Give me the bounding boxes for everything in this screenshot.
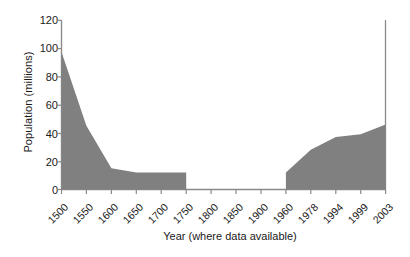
area-segment-early xyxy=(62,52,187,190)
plot-area xyxy=(0,0,410,257)
x-axis-title: Year (where data available) xyxy=(130,230,330,242)
population-area-chart: Population (millions) 120 100 80 60 40 2… xyxy=(0,0,410,257)
area-segment-modern xyxy=(286,124,386,189)
x-axis-ticks xyxy=(62,190,386,195)
